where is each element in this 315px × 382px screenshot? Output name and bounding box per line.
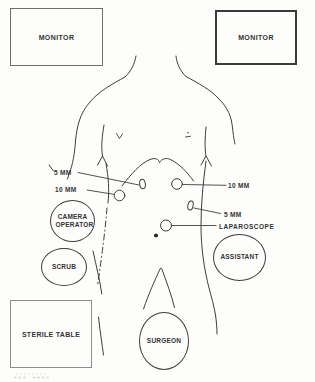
monitor-left: MONITOR — [10, 8, 103, 66]
surgeon-circle: SURGEON — [139, 312, 189, 370]
monitor-right-label: MONITOR — [238, 34, 274, 41]
right-nipple-mark — [186, 136, 191, 137]
left-flank-line — [106, 164, 109, 203]
left-flank-dashdot-line — [98, 208, 108, 286]
sterile-table-label: STERILE TABLE — [22, 331, 80, 338]
port-label-5mm-right: 5 MM — [224, 211, 241, 218]
umbilicus-dot — [154, 233, 158, 237]
perineum-legs-line — [144, 268, 175, 309]
port-10mm-left — [114, 190, 125, 201]
leader-5mm-right — [194, 208, 221, 214]
or-setup-diagram: MONITOR MONITOR STERILE TABLE CAMERA OPE… — [0, 0, 315, 382]
port-5mm-left — [139, 179, 146, 189]
port-10mm-right — [172, 179, 183, 190]
costal-margin-line — [122, 159, 194, 187]
port-label-10mm-right: 10 MM — [228, 182, 249, 189]
right-shoulder-arm-line — [186, 77, 235, 145]
right-flank-hip-line — [201, 161, 216, 315]
assistant-circle: ASSISTANT — [213, 234, 266, 281]
monitor-left-label: MONITOR — [39, 34, 75, 41]
port-laparoscope — [161, 220, 172, 231]
scrub-circle: SCRUB — [41, 248, 87, 286]
left-thigh-line — [99, 317, 104, 355]
leader-10mm-left — [87, 190, 114, 194]
right-nipple-dot — [187, 132, 189, 134]
port-label-5mm-left: 5 MM — [54, 169, 71, 176]
port-label-10mm-left: 10 MM — [55, 186, 76, 193]
scrub-label: SCRUB — [52, 263, 76, 271]
port-5mm-right — [187, 200, 194, 210]
sterile-table: STERILE TABLE — [10, 300, 92, 368]
port-label-laparoscope: LAPAROSCOPE — [219, 223, 274, 230]
leader-10mm-right — [183, 185, 226, 186]
neck-left-line — [125, 56, 136, 77]
camera-operator-circle: CAMERA OPERATOR — [50, 200, 95, 242]
right-chest-side-line — [205, 127, 206, 156]
left-chest-side-line — [102, 125, 104, 156]
camera-operator-label: CAMERA OPERATOR — [56, 213, 90, 230]
left-arm-dash — [49, 165, 54, 171]
left-nipple-mark — [117, 134, 123, 139]
neck-right-line — [176, 56, 186, 77]
surgeon-label: SURGEON — [147, 337, 181, 345]
left-hip-leg-line — [93, 251, 102, 294]
assistant-label: ASSISTANT — [220, 253, 258, 261]
right-thigh-line — [216, 315, 218, 334]
monitor-right: MONITOR — [215, 10, 297, 65]
left-shoulder-arm-line — [68, 77, 126, 179]
